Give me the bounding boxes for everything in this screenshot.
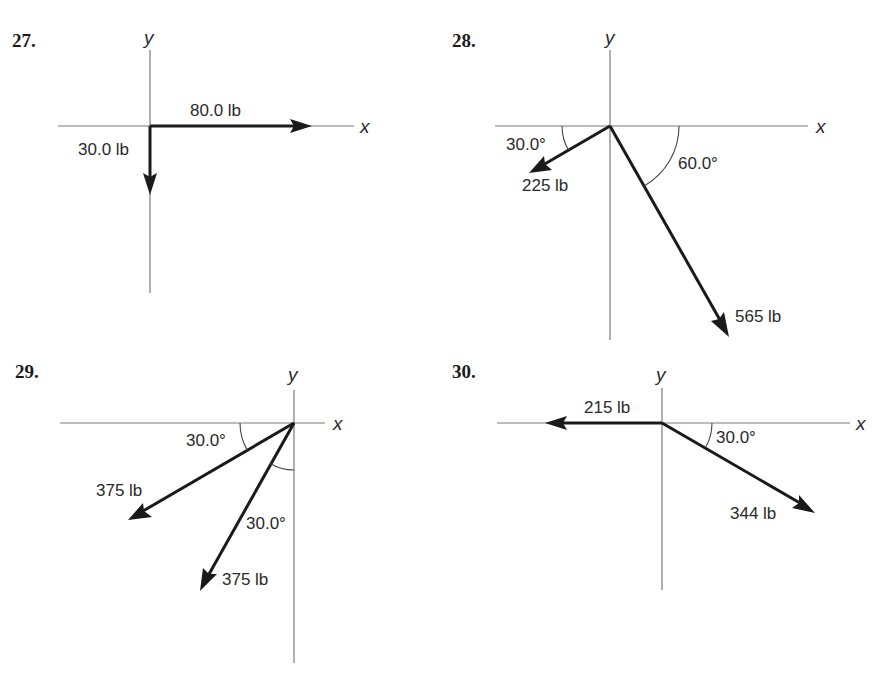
arrowhead-icon <box>792 495 815 513</box>
angle-label-60: 60.0° <box>678 154 718 173</box>
vector-label-215lb: 215 lb <box>584 398 630 417</box>
problem-number-29: 29. <box>15 361 39 382</box>
vector-80lb <box>150 119 312 133</box>
y-axis-label-28: y <box>603 27 616 48</box>
vector-30lb <box>143 126 157 195</box>
y-axis-label-29: y <box>286 364 299 385</box>
diagram-29: 29. y x 30.0° 375 lb 30.0° 375 lb <box>15 361 344 663</box>
angle-arc-60 <box>645 126 680 186</box>
angle-label-30-a: 30.0° <box>186 431 226 450</box>
arrowhead-icon <box>711 312 729 337</box>
arrowhead-icon <box>128 503 152 520</box>
problem-number-30: 30. <box>452 361 476 382</box>
angle-arc-30 <box>705 423 712 448</box>
vector-label-375lb-a: 375 lb <box>96 481 142 500</box>
y-axis-label-30: y <box>654 364 667 385</box>
x-axis-label-27: x <box>359 116 371 137</box>
vector-label-375lb-b: 375 lb <box>222 570 268 589</box>
problem-number-28: 28. <box>452 30 476 51</box>
vector-label-80lb: 80.0 lb <box>190 101 241 120</box>
x-axis-label-30: x <box>855 413 867 434</box>
arrowhead-icon <box>200 568 217 591</box>
angle-label-30: 30.0° <box>506 135 546 154</box>
vector-label-565lb: 565 lb <box>735 307 781 326</box>
vector-diagrams-figure: 27. y x 80.0 lb 30.0 lb 28. y x 30.0° 22… <box>0 0 885 675</box>
angle-label-30: 30.0° <box>716 428 756 447</box>
y-axis-label-27: y <box>142 27 155 48</box>
vector-label-225lb: 225 lb <box>522 176 568 195</box>
x-axis-label-28: x <box>815 116 827 137</box>
vector-label-30lb: 30.0 lb <box>78 140 129 159</box>
vector-215lb <box>545 416 662 430</box>
diagram-28: 28. y x 30.0° 225 lb 60.0° 565 lb <box>452 27 827 340</box>
angle-arc-30 <box>562 126 568 150</box>
x-axis-label-29: x <box>332 413 344 434</box>
angle-arc-30-b <box>271 464 295 470</box>
vector-label-344lb: 344 lb <box>730 504 776 523</box>
problem-number-27: 27. <box>12 30 36 51</box>
angle-arc-30-a <box>240 423 247 450</box>
angle-label-30-b: 30.0° <box>246 514 286 533</box>
diagram-27: 27. y x 80.0 lb 30.0 lb <box>12 27 371 293</box>
diagram-30: 30. y x 215 lb 30.0° 344 lb <box>452 361 867 590</box>
arrowhead-icon <box>529 156 552 173</box>
